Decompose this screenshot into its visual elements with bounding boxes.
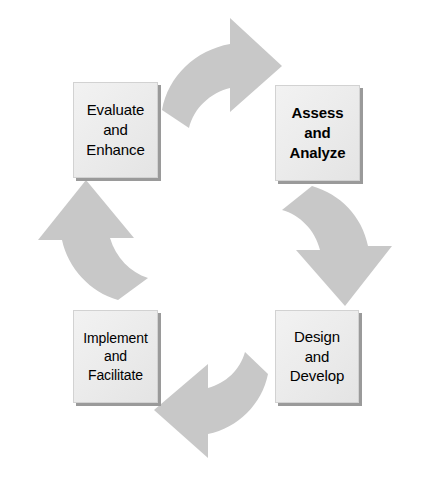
cycle-node-evaluate[interactable]: Evaluate and Enhance — [73, 82, 158, 178]
cycle-node-implement-line-1: Implement — [83, 329, 147, 347]
cycle-node-implement-line-2: and — [104, 347, 127, 365]
curved-block-arrow-left-icon — [154, 352, 268, 458]
cycle-node-design-line-2: and — [305, 347, 330, 367]
cycle-node-evaluate-line-1: Evaluate — [87, 100, 145, 120]
arrow-layer — [0, 0, 428, 485]
cycle-node-assess-line-2: and — [304, 123, 330, 143]
cycle-node-implement-line-3: Facilitate — [88, 366, 143, 384]
curved-block-arrow-down-icon — [282, 186, 392, 306]
cycle-node-implement[interactable]: Implement and Facilitate — [73, 310, 158, 403]
cycle-diagram: Evaluate and Enhance Assess and Analyze … — [0, 0, 428, 485]
cycle-node-assess[interactable]: Assess and Analyze — [275, 85, 360, 181]
cycle-node-design-line-1: Design — [294, 327, 340, 347]
cycle-node-evaluate-line-3: Enhance — [86, 140, 145, 160]
cycle-node-design-line-3: Develop — [290, 366, 344, 386]
cycle-node-assess-line-3: Analyze — [290, 143, 346, 163]
cycle-node-assess-line-1: Assess — [292, 103, 344, 123]
cycle-node-design[interactable]: Design and Develop — [275, 310, 359, 403]
curved-block-arrow-right-icon — [162, 18, 282, 128]
curved-block-arrow-up-icon — [38, 180, 148, 300]
cycle-node-evaluate-line-2: and — [103, 120, 128, 140]
